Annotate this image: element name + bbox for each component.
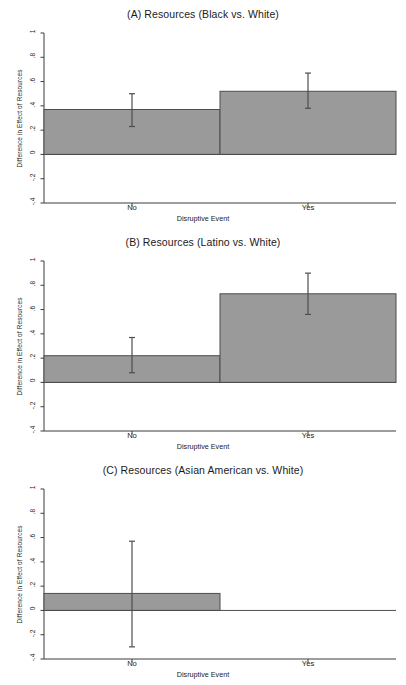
chart-panel-c: (C) Resources (Asian American vs. White)…: [0, 456, 406, 684]
y-tick-label-text: 0: [29, 607, 36, 611]
y-tick-label: .6: [25, 533, 41, 540]
y-tick-label-text: -.4: [29, 198, 36, 206]
y-tick-label: 0: [25, 377, 41, 384]
y-tick-label: .4: [25, 557, 41, 564]
y-tick-label: 1: [25, 484, 41, 491]
y-tick-label: 0: [25, 149, 41, 156]
y-tick-label-text: -.2: [29, 401, 36, 409]
y-tick-label: .4: [25, 329, 41, 336]
y-tick-label: .8: [25, 508, 41, 515]
y-tick-label-text: 0: [29, 379, 36, 383]
y-tick-label: -.2: [25, 174, 41, 181]
y-tick-label-text: .4: [29, 330, 36, 336]
y-tick-label-text: -.4: [29, 654, 36, 662]
x-tick-label: No: [102, 659, 162, 668]
y-tick-label: 1: [25, 28, 41, 35]
y-tick-label-text: .8: [29, 509, 36, 515]
y-tick-label: 0: [25, 605, 41, 612]
y-tick-label-text: -.2: [29, 629, 36, 637]
x-tick-label: Yes: [278, 431, 338, 440]
y-tick-label: 1: [25, 256, 41, 263]
panel-b-plot: [0, 228, 406, 456]
y-tick-label-text: .4: [29, 558, 36, 564]
chart-panel-a: (A) Resources (Black vs. White) Differen…: [0, 0, 406, 228]
panel-a-x-axis-title: Disruptive Event: [0, 214, 406, 223]
y-tick-label: -.4: [25, 426, 41, 433]
y-tick-label: -.4: [25, 654, 41, 661]
y-tick-label: -.4: [25, 198, 41, 205]
y-tick-label-text: 0: [29, 151, 36, 155]
panel-b-x-axis-title: Disruptive Event: [0, 442, 406, 451]
y-tick-label-text: 1: [29, 486, 36, 490]
y-tick-label-text: .8: [29, 281, 36, 287]
y-tick-label: .6: [25, 77, 41, 84]
x-tick-label: Yes: [278, 203, 338, 212]
figure-container: (A) Resources (Black vs. White) Differen…: [0, 0, 406, 685]
y-tick-label: -.2: [25, 630, 41, 637]
y-tick-label: .8: [25, 52, 41, 59]
y-tick-label-text: .6: [29, 305, 36, 311]
x-tick-label: No: [102, 431, 162, 440]
y-tick-label-text: .4: [29, 102, 36, 108]
x-tick-label: No: [102, 203, 162, 212]
y-tick-label-text: .2: [29, 354, 36, 360]
y-tick-label: .4: [25, 101, 41, 108]
panel-a-plot: [0, 0, 406, 228]
panel-c-plot: [0, 456, 406, 684]
x-tick-label: Yes: [278, 659, 338, 668]
y-tick-label: .2: [25, 581, 41, 588]
y-tick-label-text: 1: [29, 258, 36, 262]
y-tick-label-text: .2: [29, 126, 36, 132]
y-tick-label-text: .2: [29, 582, 36, 588]
y-tick-label: .2: [25, 125, 41, 132]
y-tick-label: .6: [25, 305, 41, 312]
y-tick-label-text: .6: [29, 77, 36, 83]
y-tick-label: -.2: [25, 402, 41, 409]
chart-panel-b: (B) Resources (Latino vs. White) Differe…: [0, 228, 406, 456]
y-tick-label-text: -.4: [29, 426, 36, 434]
y-tick-label-text: .6: [29, 533, 36, 539]
y-tick-label-text: 1: [29, 30, 36, 34]
y-tick-label-text: .8: [29, 53, 36, 59]
panel-c-x-axis-title: Disruptive Event: [0, 670, 406, 679]
y-tick-label: .8: [25, 280, 41, 287]
y-tick-label-text: -.2: [29, 173, 36, 181]
y-tick-label: .2: [25, 353, 41, 360]
